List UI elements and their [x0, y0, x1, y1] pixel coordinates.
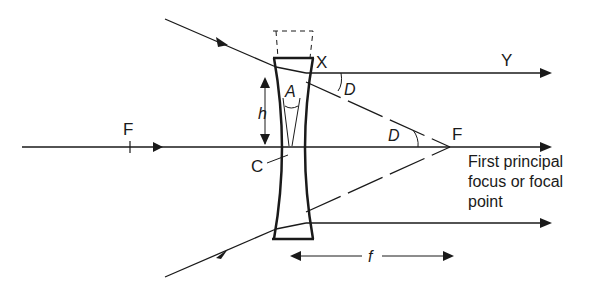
- focal-length-label: f: [368, 248, 374, 265]
- angle-d-axis-label: D: [388, 127, 400, 144]
- focus-right-label: F: [452, 125, 462, 144]
- focus-left-label: F: [123, 120, 133, 139]
- angle-a-arc: [285, 106, 298, 108]
- focus-caption-line2: focus or focal: [468, 173, 563, 190]
- angle-d-top-arc: [338, 73, 342, 91]
- prism-outline-dashed: [273, 31, 313, 58]
- focus-caption-line3: point: [468, 193, 503, 210]
- point-y-label: Y: [501, 51, 512, 70]
- focus-caption-line1: First principal: [468, 153, 563, 170]
- diverging-lens-diagram: F F X Y A D D h C f First principal focu…: [0, 0, 613, 284]
- upper-ray: [165, 19, 552, 147]
- angle-a-label: A: [284, 83, 296, 100]
- center-leader: [267, 155, 288, 163]
- height-label: h: [258, 105, 267, 122]
- center-label: C: [251, 157, 263, 176]
- axis-arrow-icon: [153, 142, 163, 152]
- angle-d-top-label: D: [344, 81, 356, 98]
- principal-axis: [22, 141, 552, 153]
- point-x-label: X: [316, 53, 327, 72]
